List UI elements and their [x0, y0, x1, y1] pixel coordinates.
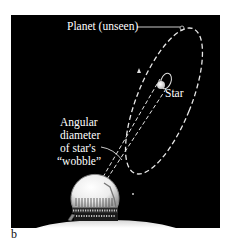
star-label: Star	[165, 87, 184, 99]
diagram-canvas: Planet (unseen) Star Angular diameter of…	[0, 0, 227, 248]
exoplanet-wobble-diagram: Planet (unseen) Star Angular diameter of…	[0, 0, 227, 248]
wobble-label-line1: Angular	[60, 116, 98, 129]
wobble-label-line4: “wobble”	[57, 155, 101, 167]
panel-letter: b	[11, 228, 17, 240]
distant-star-dot	[132, 193, 134, 195]
star-icon	[157, 81, 165, 89]
wobble-label-line2: diameter	[60, 129, 100, 141]
wobble-label-line3: of star's	[60, 142, 96, 154]
planet-label: Planet (unseen)	[67, 20, 138, 33]
